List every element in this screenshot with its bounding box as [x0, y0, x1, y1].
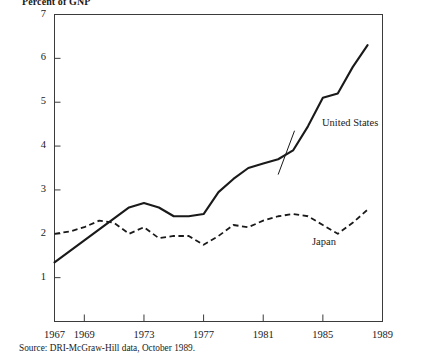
x-axis-ticks	[84, 315, 323, 322]
x-tick-label: 1989	[363, 329, 403, 340]
series-line-united-states	[55, 45, 368, 262]
x-tick-label: 1981	[243, 329, 283, 340]
y-tick-label: 1	[30, 271, 46, 282]
y-tick-label: 3	[30, 183, 46, 194]
y-tick-label: 5	[30, 95, 46, 106]
y-tick-label: 4	[30, 139, 46, 150]
y-tick-label: 2	[30, 227, 46, 238]
y-tick-label: 6	[30, 51, 46, 62]
chart-plot-area	[0, 0, 430, 358]
series-label-united-states: United States	[322, 117, 378, 128]
x-tick-label: 1973	[124, 329, 164, 340]
united-states-leader-line	[278, 131, 294, 175]
y-tick-label: 7	[30, 8, 46, 19]
source-note: Source: DRI-McGraw-Hill data, October 19…	[19, 343, 195, 353]
series-label-japan: Japan	[312, 236, 336, 247]
plot-frame	[55, 15, 383, 322]
x-tick-label: 1985	[303, 329, 343, 340]
y-axis-ticks	[55, 15, 61, 278]
chart-container: Percent of GNP 1234567 19671969197319771…	[0, 0, 430, 358]
x-tick-label: 1969	[64, 329, 104, 340]
x-tick-label: 1977	[184, 329, 224, 340]
